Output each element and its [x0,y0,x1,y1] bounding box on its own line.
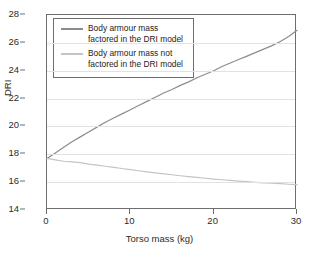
y-tick-label-28: 28 [0,9,19,19]
plot-area: Body armour mass factored in the DRI mod… [46,14,296,209]
x-tick-label-20: 20 [198,216,228,226]
legend-item-armour-factored: Body armour mass factored in the DRI mod… [58,23,189,45]
x-tick-mark-10 [129,209,130,214]
gridline-y-24 [47,71,295,72]
legend-label-armour-not-factored: Body armour mass not factored in the DRI… [88,48,183,70]
gridline-y-26 [47,43,295,44]
y-tick-mark-24 [20,69,25,70]
y-tick-label-18: 18 [0,149,19,159]
legend-label-armour-factored: Body armour mass factored in the DRI mod… [88,23,183,45]
legend-item-armour-not-factored: Body armour mass not factored in the DRI… [58,48,189,70]
y-tick-mark-20 [20,125,25,126]
gridline-y-20 [47,126,295,127]
x-tick-mark-30 [296,209,297,214]
gridline-y-16 [47,182,295,183]
y-tick-label-24: 24 [0,65,19,75]
x-tick-label-30: 30 [281,216,311,226]
y-tick-mark-28 [20,14,25,15]
chart-legend: Body armour mass factored in the DRI mod… [53,18,194,78]
x-tick-mark-0 [46,209,47,214]
y-tick-mark-16 [20,181,25,182]
y-tick-mark-22 [20,97,25,98]
y-tick-mark-26 [20,41,25,42]
y-tick-mark-14 [20,209,25,210]
y-axis-title: DRI [2,80,13,96]
y-tick-label-20: 20 [0,121,19,131]
y-tick-label-16: 16 [0,176,19,186]
x-axis-title: Torso mass (kg) [0,233,319,244]
y-tick-label-26: 26 [0,37,19,47]
legend-swatch-armour-not-factored [61,53,83,55]
x-tick-label-0: 0 [31,216,61,226]
y-tick-mark-18 [20,153,25,154]
y-tick-label-14: 14 [0,204,19,214]
x-tick-mark-20 [213,209,214,214]
chart-figure: 1416182022242628 DRI Body armour mass fa… [0,0,319,258]
x-tick-label-10: 10 [114,216,144,226]
series-line-armour-not-factored [47,158,297,184]
gridline-y-18 [47,154,295,155]
gridline-y-22 [47,99,295,100]
legend-swatch-armour-factored [61,28,83,30]
